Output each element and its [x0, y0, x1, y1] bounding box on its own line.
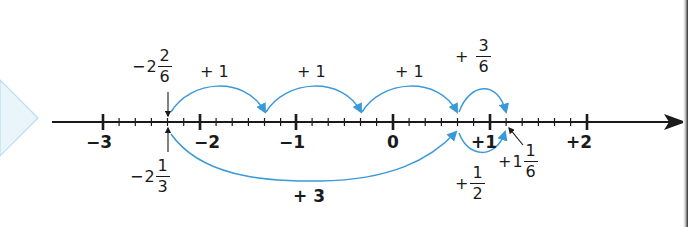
jump-label-top-2: + 1: [297, 62, 326, 81]
denominator: 6: [524, 164, 538, 180]
result-label: + 1 1 6: [498, 143, 538, 180]
jump-label-bottom-1: + 3: [293, 186, 325, 206]
jump-label-top-4: + 3 6: [455, 38, 491, 75]
numerator: 3: [476, 38, 490, 54]
whole-part: 2: [144, 167, 154, 186]
tick-label-plus-2: +2: [566, 132, 592, 152]
sign: −: [130, 167, 143, 186]
numerator: 1: [156, 158, 170, 174]
tick-label-zero: 0: [387, 132, 399, 152]
whole-part: 1: [512, 152, 522, 171]
fraction: 1 2: [470, 165, 484, 202]
tick-label-minus-1: −1: [279, 132, 305, 152]
jump-label-top-3: + 1: [395, 62, 424, 81]
denominator: 6: [158, 69, 172, 85]
top-jump-arcs: [171, 86, 506, 112]
start-label-bottom: − 2 1 3: [130, 158, 170, 195]
numerator: 1: [470, 165, 484, 181]
sign: +: [455, 174, 468, 193]
number-line-diagram: −3 −2 −1 0 +1 +2 − 2 2 6 + 1 + 1 + 1 + 3…: [0, 0, 688, 227]
denominator: 3: [156, 179, 170, 195]
arc-top-1: [171, 86, 265, 112]
fraction: 1 6: [524, 143, 538, 180]
axis: [52, 114, 686, 130]
tick-label-minus-2: −2: [194, 132, 220, 152]
numerator: 2: [158, 48, 172, 64]
tick-label-plus-1: +1: [471, 132, 497, 152]
denominator: 6: [476, 59, 490, 75]
start-label-top: − 2 2 6: [132, 48, 172, 85]
fraction: 2 6: [158, 48, 172, 85]
sign: +: [498, 152, 511, 171]
denominator: 2: [470, 186, 484, 202]
arc-top-2: [266, 86, 361, 112]
sign: −: [132, 57, 145, 76]
fraction: 3 6: [476, 38, 490, 75]
page-edge-border: [683, 0, 688, 227]
jump-label-bottom-2: + 1 2: [455, 165, 485, 202]
tick-label-minus-3: −3: [86, 132, 112, 152]
diagram-graphics: [0, 0, 688, 227]
sign: +: [455, 47, 468, 66]
arc-top-3: [362, 86, 457, 112]
arc-top-4: [459, 89, 506, 112]
whole-part: 2: [146, 57, 156, 76]
fraction: 1 3: [156, 158, 170, 195]
jump-label-top-1: + 1: [200, 62, 229, 81]
pointer-triangle-icon: [0, 80, 38, 156]
numerator: 1: [524, 143, 538, 159]
